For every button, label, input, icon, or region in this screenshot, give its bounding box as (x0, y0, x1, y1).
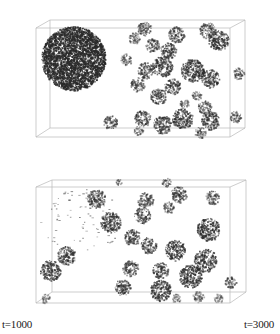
particle-cluster (163, 201, 174, 213)
particle-cluster (153, 116, 172, 135)
particle-cluster (150, 88, 166, 105)
particle-cluster (137, 22, 152, 37)
simulation-panel-bottom (0, 160, 280, 310)
time-label-left: t=1000 (2, 318, 32, 330)
particle-cluster (41, 26, 106, 92)
particle-cluster (57, 246, 76, 266)
time-label-right: t=3000 (244, 318, 274, 330)
particle-cluster (125, 229, 141, 245)
particle-cluster (138, 62, 154, 79)
particle-cluster (134, 208, 151, 225)
particle-cluster (138, 192, 155, 209)
particle-cluster (192, 91, 203, 101)
particle-cluster (171, 187, 188, 204)
particle-cluster (230, 111, 242, 124)
particle-cluster (199, 23, 216, 40)
particle-cluster (160, 43, 177, 59)
particle-cluster (121, 53, 133, 66)
simulation-panel-top (0, 0, 280, 160)
particle-cluster (131, 77, 146, 93)
particle-cluster (115, 280, 132, 296)
particle-cluster (197, 218, 220, 242)
particle-cluster (145, 38, 160, 52)
particle-cluster (141, 237, 158, 254)
particle-cluster (180, 100, 190, 109)
cluster-snapshot-bottom (0, 160, 280, 310)
cluster-snapshot-top (0, 0, 280, 160)
particle-cluster (152, 262, 169, 279)
particle-cluster (40, 260, 62, 282)
particle-cluster (162, 178, 172, 188)
particle-cluster (172, 108, 194, 129)
particle-cluster (122, 260, 139, 277)
particle-cluster (214, 294, 224, 304)
particle-cluster (201, 69, 220, 89)
particle-cluster (206, 191, 220, 206)
particle-cluster (150, 280, 172, 302)
particle-cluster (225, 276, 238, 289)
particle-cluster (87, 190, 106, 209)
particle-cluster (129, 32, 141, 44)
particle-cluster (152, 56, 174, 77)
particle-cluster (100, 212, 121, 234)
particle-cluster (134, 111, 151, 128)
particle-cluster (165, 240, 186, 262)
particle-cluster (42, 294, 51, 304)
particle-cluster (172, 294, 181, 303)
particle-cluster (134, 126, 145, 136)
particle-cluster (193, 291, 206, 303)
particle-cluster (168, 26, 185, 43)
particle-cluster (233, 67, 245, 80)
particle-cluster (104, 115, 118, 129)
particle-cluster (164, 78, 181, 95)
